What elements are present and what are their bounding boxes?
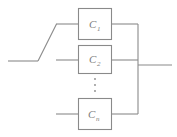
vertical-ellipsis-icon — [94, 78, 96, 92]
block-diagram-canvas: C 1 C 2 C n — [0, 0, 177, 137]
block-label-n: C — [88, 108, 96, 120]
ellipsis-dot — [94, 90, 96, 92]
ellipsis-dot — [94, 78, 96, 80]
block-label-2: C — [89, 53, 97, 65]
ellipsis-dot — [94, 84, 96, 86]
block-label-2-subscript: 2 — [97, 60, 101, 68]
block-label-1: C — [89, 18, 97, 30]
block-label-n-subscript: n — [96, 115, 100, 123]
input-wire-diagonal — [38, 24, 57, 61]
block-label-1-subscript: 1 — [97, 25, 101, 33]
block-diagram-svg: C 1 C 2 C n — [0, 0, 177, 137]
